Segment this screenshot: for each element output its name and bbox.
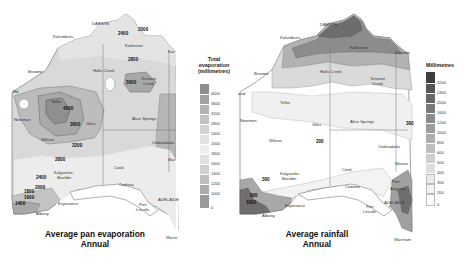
legend-swatch [200, 185, 209, 195]
rainfall-legend: 3200 2400 2000 1600 1200 1000 800 600 50… [426, 72, 460, 214]
place-label-kalumburu: Kalumburu [53, 35, 73, 39]
legend-tick: 1800 [211, 152, 220, 156]
legend-tick: 2000 [437, 101, 446, 105]
isoline-label: 3600 [70, 123, 80, 128]
place-label-albany: Albany [262, 214, 275, 218]
legend-tick: 4000 [211, 92, 220, 96]
legend-tick: 1600 [437, 111, 446, 115]
isoline-label: 2800 [128, 58, 138, 63]
place-label-telfer: Telfer [280, 101, 290, 105]
legend-swatch [200, 105, 209, 115]
place-label-darwin: DARWIN [92, 22, 109, 26]
isoline-label: 1600 [24, 196, 34, 201]
legend-tick: 3200 [211, 112, 220, 116]
legend-swatch [426, 184, 435, 194]
place-label-halls-creek: Halls Creek [320, 70, 342, 74]
legend-swatch [200, 115, 209, 125]
legend-swatch [426, 164, 435, 174]
isoline-label: 3200 [72, 144, 82, 149]
isoline-label: 300 [406, 122, 414, 127]
place-label-hedland: and [238, 92, 245, 96]
caption-subtitle: Annual [262, 239, 372, 249]
place-label-cook: Cook [114, 166, 124, 170]
evaporation-map-caption: Average pan evaporation Annual [20, 229, 170, 249]
place-label-tennant-creek-2: Creek [372, 82, 383, 86]
place-label-cook: Cook [342, 168, 352, 172]
place-label-wiluna: Wiluna [41, 138, 54, 142]
place-label-albany: Albany [36, 212, 49, 216]
legend-tick: 2800 [211, 122, 220, 126]
place-label-adelaide: ADELAIDE [384, 201, 405, 205]
legend-tick: 200 [437, 191, 444, 195]
legend-tick: 1600 [211, 162, 220, 166]
legend-swatch [200, 175, 209, 185]
place-label-adelaide: ADELAIDE [158, 198, 179, 202]
isoline-label: 2400 [36, 176, 46, 181]
legend-swatch [426, 134, 435, 144]
legend-swatch [426, 72, 435, 84]
legend-tick: 1000 [211, 192, 220, 196]
place-label-esperance: Esperance [285, 204, 305, 208]
place-label-warrnambool: Warrnam [394, 238, 411, 242]
place-label-telfer: Telfer [51, 100, 61, 104]
evaporation-map-panel: Total evaporation (millimetres) 4000 360… [0, 0, 232, 263]
legend-tick: 2000 [211, 142, 220, 146]
legend-tick: 3200 [437, 81, 446, 85]
isoline-label: 1400 [15, 202, 25, 207]
place-label-wiluna: Wiluna [269, 139, 282, 143]
legend-tick: 2400 [437, 91, 446, 95]
place-label-katherine: Katherine [125, 44, 143, 48]
legend-tick: 1400 [211, 172, 220, 176]
place-label-ceduna: Ceduna [119, 183, 134, 187]
legend-swatch [426, 114, 435, 124]
rainfall-map-caption: Average rainfall Annual [262, 229, 372, 249]
legend-swatch [200, 125, 209, 135]
evaporation-map-graphic [0, 0, 232, 263]
isoline-label: 2000 [138, 28, 148, 33]
place-label-port-lincoln-2: Lincoln [136, 208, 149, 212]
legend-tick: 600 [437, 151, 444, 155]
legend-swatch [426, 174, 435, 184]
legend-tick: 2400 [211, 132, 220, 136]
rainfall-legend-title: Millimetres [416, 62, 464, 68]
legend-swatch [200, 195, 209, 209]
legend-tick: 400 [437, 171, 444, 175]
isoline-label: 1000 [246, 201, 256, 206]
legend-tick: 0 [211, 206, 213, 210]
place-label-oodnadatta: Oodnadatta [152, 141, 174, 145]
isoline-label: 300 [262, 178, 270, 183]
isoline-label: 2000 [35, 186, 45, 191]
evaporation-legend: 4000 3600 3200 2800 2400 2000 1800 1600 … [200, 84, 230, 212]
place-label-marree: Marree [395, 162, 408, 166]
legend-swatch [200, 145, 209, 155]
place-label-alice-springs: Alice Springs [350, 120, 374, 124]
legend-swatch [426, 124, 435, 134]
place-label-marree: Mar [168, 158, 175, 162]
place-label-giles: Giles [312, 123, 322, 127]
place-label-halls-creek: Halls Creek [93, 69, 115, 73]
legend-swatch [200, 155, 209, 165]
legend-tick: 500 [437, 161, 444, 165]
legend-swatch [200, 165, 209, 175]
place-label-hedland: Hd [13, 90, 18, 94]
place-label-oodnadatta: Oodnadatta [378, 145, 400, 149]
place-label-tennant-creek-2: Creek [143, 82, 154, 86]
legend-swatch [426, 84, 435, 94]
place-label-port-augusta: Port [392, 180, 400, 184]
isoline-label: 2800 [55, 158, 65, 163]
rainfall-map-panel: Millimetres 3200 2400 2000 1600 1200 100… [232, 0, 464, 263]
legend-tick: 3600 [211, 102, 220, 106]
isoline-label: 200 [316, 140, 324, 145]
place-label-ceduna: Ceduna [345, 185, 360, 189]
place-label-newman: Newman [14, 118, 31, 122]
place-label-port-lincoln-2: Lincoln [363, 210, 376, 214]
legend-swatch [426, 104, 435, 114]
caption-title: Average rainfall [262, 229, 372, 239]
place-label-kalgoorlie-2: Boulder [282, 177, 296, 181]
isoline-label: 3600 [126, 81, 136, 86]
place-label-alice-springs: Alice Springs [132, 117, 156, 121]
legend-swatch [200, 135, 209, 145]
isoline-label: 4000 [63, 107, 73, 112]
place-label-karumba: Kar [168, 50, 175, 54]
legend-swatch [426, 154, 435, 164]
